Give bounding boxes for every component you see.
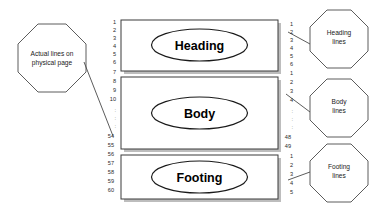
physical-line-number: 2: [104, 28, 116, 34]
physical-line-number: 3: [104, 36, 116, 42]
body-lines-callout-line1: Body: [331, 98, 347, 106]
physical-line-number: 55: [102, 143, 114, 149]
logical-line-number: 2: [281, 30, 293, 36]
physical-line-number: 5: [104, 52, 116, 58]
logical-line-number: 3: [281, 38, 293, 44]
physical-line-number: 1: [104, 20, 116, 26]
diagram-canvas: Heading Body Footing Actual lines on phy…: [0, 0, 376, 209]
logical-line-number: 4: [281, 181, 293, 187]
physical-line-number: 6: [104, 60, 116, 66]
body-lines-callout-line2: lines: [332, 107, 346, 114]
physical-line-number: 7: [104, 70, 116, 76]
logical-line-number: 4: [281, 46, 293, 52]
physical-line-number: 56: [102, 152, 114, 158]
physical-line-number: 59: [102, 179, 114, 185]
physical-line-number: 54: [102, 134, 114, 140]
physical-line-number: 57: [102, 161, 114, 167]
actual-lines-callout-line2: physical page: [32, 59, 73, 67]
physical-line-number: 4: [104, 44, 116, 50]
logical-line-number: 2: [281, 163, 293, 169]
physical-line-number: 58: [102, 170, 114, 176]
logical-line-number: 1: [281, 154, 293, 160]
physical-line-ellipsis: :: [104, 116, 116, 122]
physical-line-ellipsis: :: [104, 108, 116, 114]
actual-lines-callout: [18, 24, 86, 92]
body-label: Body: [184, 107, 215, 121]
logical-line-ellipsis: :: [281, 125, 293, 131]
logical-line-number: 1: [281, 22, 293, 28]
logical-line-number: 4: [281, 98, 293, 104]
logical-line-number: 1: [281, 71, 293, 77]
logical-line-number: 5: [281, 54, 293, 60]
physical-line-ellipsis: :: [104, 124, 116, 130]
logical-line-ellipsis: :: [281, 109, 293, 115]
logical-line-ellipsis: :: [281, 117, 293, 123]
actual-lines-callout-line1: Actual lines on: [31, 50, 74, 57]
footing-label: Footing: [177, 171, 223, 185]
footing-lines-callout-line2: lines: [332, 172, 346, 179]
logical-line-number: 3: [281, 89, 293, 95]
physical-line-number: 60: [102, 188, 114, 194]
heading-lines-callout-line2: lines: [332, 38, 346, 45]
logical-line-number: 3: [281, 172, 293, 178]
logical-line-number: 5: [281, 190, 293, 196]
diagram-vector-layer: Heading Body Footing Actual lines on phy…: [0, 0, 376, 209]
physical-line-number: 9: [104, 88, 116, 94]
physical-line-number: 10: [104, 97, 116, 103]
heading-label: Heading: [175, 39, 224, 53]
logical-line-number: 49: [279, 144, 291, 150]
logical-line-number: 48: [279, 135, 291, 141]
logical-line-number: 2: [281, 80, 293, 86]
heading-lines-callout-line1: Heading: [327, 29, 352, 37]
footing-lines-callout-line1: Footing: [328, 163, 350, 171]
physical-line-number: 8: [104, 79, 116, 85]
logical-line-number: 6: [281, 62, 293, 68]
